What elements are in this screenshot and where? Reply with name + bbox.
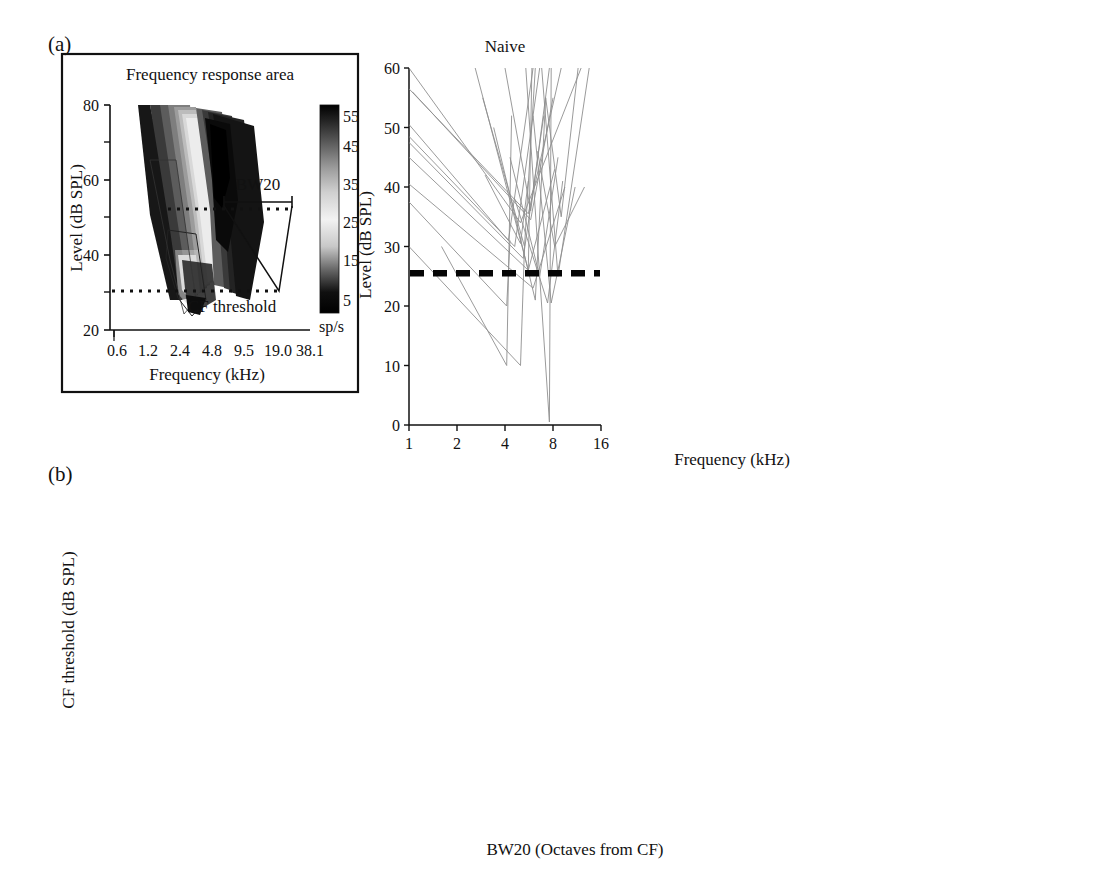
tuning-curve-naive-panel-unit-21 bbox=[542, 68, 590, 276]
panel-b-y-axis-label: CF threshold (dB SPL) bbox=[59, 551, 78, 708]
ytick-label-naive-panel-0: 0 bbox=[392, 417, 400, 434]
colorbar-unit-label: sp/s bbox=[319, 318, 344, 336]
xtick-label-naive-panel-2: 2 bbox=[453, 435, 461, 452]
subplot-title-naive-panel: Naive bbox=[485, 37, 526, 56]
ytick-label-naive-panel-30: 30 bbox=[384, 239, 400, 256]
inset-x-axis-label: Frequency (kHz) bbox=[149, 365, 265, 384]
inset-ytick-80: 80 bbox=[83, 97, 99, 114]
xtick-label-naive-panel-1: 1 bbox=[405, 435, 413, 452]
colorbar-gradient bbox=[320, 105, 339, 313]
inset-xtick-3: 4.8 bbox=[202, 342, 222, 359]
panel-a-letter: (a) bbox=[48, 32, 71, 57]
inset-cf-threshold-label: CF threshold bbox=[188, 297, 277, 316]
tuning-curve-naive-panel-unit-23 bbox=[485, 175, 528, 243]
tuning-curve-naive-panel-unit-2 bbox=[409, 68, 561, 214]
panel-b-x-axis-label: BW20 (Octaves from CF) bbox=[486, 840, 663, 859]
inset-bw20-label: BW20 bbox=[236, 175, 280, 194]
ytick-label-naive-panel-40: 40 bbox=[384, 179, 400, 196]
colorbar-tick-35: 35 bbox=[343, 176, 359, 193]
inset-frequency-response-area: Frequency response area 80 60 40 20 Leve… bbox=[62, 54, 359, 392]
inset-xtick-2: 2.4 bbox=[170, 342, 190, 359]
colorbar-tick-5: 5 bbox=[343, 292, 351, 309]
panel-b-letter: (b) bbox=[48, 462, 73, 487]
subplot-naive-panel: Naive0102030405060124816 bbox=[384, 37, 609, 452]
ytick-label-naive-panel-50: 50 bbox=[384, 120, 400, 137]
inset-ytick-20: 20 bbox=[83, 322, 99, 339]
xtick-label-naive-panel-4: 4 bbox=[501, 435, 509, 452]
inset-xtick-5: 19.0 bbox=[264, 342, 292, 359]
inset-xtick-1: 1.2 bbox=[138, 342, 158, 359]
tuning-lines-naive-panel bbox=[409, 68, 589, 422]
ytick-label-naive-panel-60: 60 bbox=[384, 60, 400, 77]
inset-xtick-4: 9.5 bbox=[234, 342, 254, 359]
ytick-label-naive-panel-20: 20 bbox=[384, 298, 400, 315]
colorbar-tick-45: 45 bbox=[343, 138, 359, 155]
inset-xtick-6: 38.1 bbox=[296, 342, 324, 359]
panel-a-plots: Naive0102030405060124816 bbox=[384, 37, 609, 452]
inset-y-axis-label: Level (dB SPL) bbox=[67, 164, 86, 272]
colorbar-tick-55: 55 bbox=[343, 108, 359, 125]
figure-canvas: Frequency response area 80 60 40 20 Leve… bbox=[0, 0, 1106, 882]
figure-root: (a) (b) Frequency response area bbox=[0, 0, 1106, 882]
panel-a-x-axis-label: Frequency (kHz) bbox=[674, 450, 790, 469]
xtick-label-naive-panel-16: 16 bbox=[593, 435, 609, 452]
inset-title: Frequency response area bbox=[126, 65, 294, 84]
ytick-label-naive-panel-10: 10 bbox=[384, 358, 400, 375]
tuning-curve-naive-panel-unit-9 bbox=[409, 202, 510, 306]
panel-a-y-axis-label: Level (dB SPL) bbox=[356, 191, 375, 299]
xtick-label-naive-panel-8: 8 bbox=[549, 435, 557, 452]
inset-xtick-0: 0.6 bbox=[107, 342, 127, 359]
